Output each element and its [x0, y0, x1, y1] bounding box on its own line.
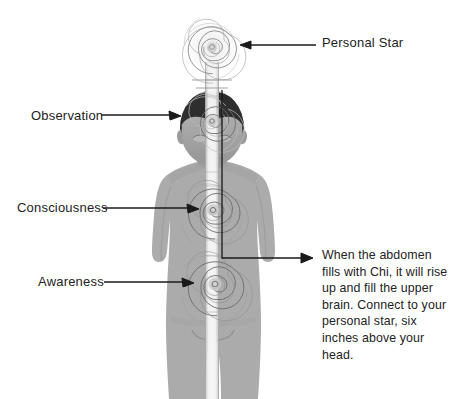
label-personal-star: Personal Star [322, 35, 403, 50]
chi-energy-diagram: Personal Star Observation Consciousness … [0, 0, 452, 399]
label-observation: Observation [31, 108, 103, 123]
leader-observation [101, 111, 181, 120]
label-consciousness: Consciousness [17, 200, 108, 215]
note-paragraph: When the abdomen fills with Chi, it will… [322, 247, 448, 363]
label-awareness: Awareness [38, 274, 104, 289]
leader-personal-star [240, 41, 316, 49]
spiral-personal-star [180, 16, 246, 83]
